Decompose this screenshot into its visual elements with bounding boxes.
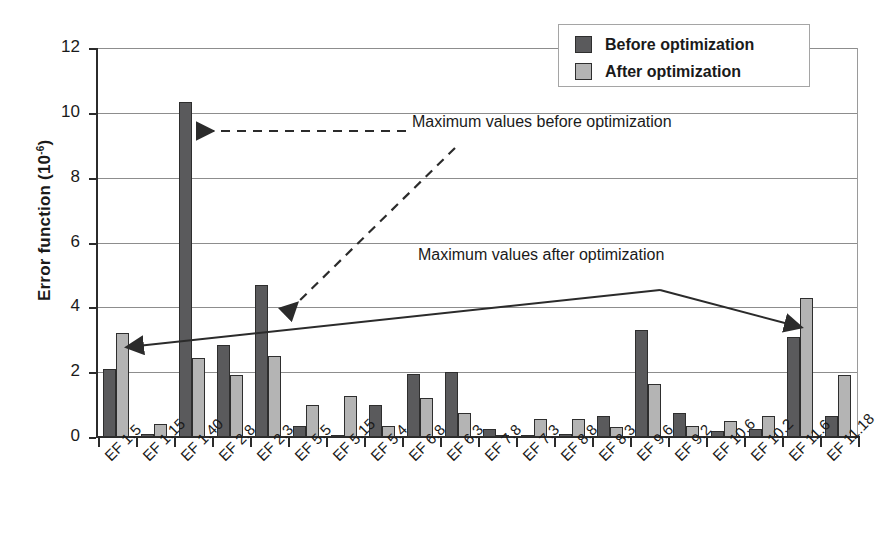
bar-before-ef-1.5 bbox=[103, 369, 116, 437]
legend: Before optimization After optimization bbox=[558, 24, 810, 87]
bar-group bbox=[402, 48, 440, 437]
x-tick-mark bbox=[516, 438, 518, 447]
y-tick-label-12: 12 bbox=[46, 37, 80, 57]
x-tick-mark bbox=[668, 438, 670, 447]
annotation-max-before: Maximum values before optimization bbox=[412, 113, 672, 131]
bar-group bbox=[98, 48, 136, 437]
y-tick-label-10: 10 bbox=[46, 102, 80, 122]
legend-swatch-before-icon bbox=[575, 36, 592, 53]
bar-before-ef-1.15 bbox=[141, 434, 154, 437]
bar-group bbox=[744, 48, 782, 437]
bar-before-ef-5.15 bbox=[331, 435, 344, 437]
bar-before-ef-9.6 bbox=[635, 330, 648, 437]
x-tick-mark bbox=[782, 438, 784, 447]
y-tick-mark-2 bbox=[89, 372, 96, 374]
bar-before-ef-2.3 bbox=[255, 285, 268, 437]
bar-series-container bbox=[98, 48, 858, 437]
x-tick-mark bbox=[858, 438, 860, 447]
bar-group bbox=[174, 48, 212, 437]
bar-group bbox=[820, 48, 858, 437]
bar-group bbox=[288, 48, 326, 437]
legend-swatch-after-icon bbox=[575, 63, 592, 80]
annotation-max-after: Maximum values after optimization bbox=[418, 246, 664, 264]
x-tick-mark bbox=[478, 438, 480, 447]
bar-group bbox=[668, 48, 706, 437]
bar-group bbox=[516, 48, 554, 437]
y-tick-label-6: 6 bbox=[46, 232, 80, 252]
y-tick-mark-8 bbox=[89, 178, 96, 180]
x-tick-mark bbox=[592, 438, 594, 447]
bar-group bbox=[136, 48, 174, 437]
bar-group bbox=[326, 48, 364, 437]
x-tick-mark bbox=[744, 438, 746, 447]
x-tick-mark bbox=[136, 438, 138, 447]
x-tick-mark bbox=[820, 438, 822, 447]
x-tick-mark bbox=[706, 438, 708, 447]
bar-after-ef-11.6 bbox=[800, 298, 813, 437]
x-tick-mark bbox=[174, 438, 176, 447]
legend-label-before: Before optimization bbox=[605, 36, 754, 54]
bar-group bbox=[554, 48, 592, 437]
y-tick-mark-10 bbox=[89, 113, 96, 115]
x-tick-mark bbox=[98, 438, 100, 447]
bar-before-ef-6.8 bbox=[407, 374, 420, 437]
x-tick-mark bbox=[326, 438, 328, 447]
bar-group bbox=[364, 48, 402, 437]
bar-group bbox=[630, 48, 668, 437]
legend-label-after: After optimization bbox=[605, 63, 741, 81]
legend-item-before: Before optimization bbox=[575, 31, 809, 58]
bar-group bbox=[440, 48, 478, 437]
bar-group bbox=[212, 48, 250, 437]
bar-chart: Error function (10-6) 024681012 EF 1.5EF… bbox=[0, 0, 875, 542]
y-tick-label-4: 4 bbox=[46, 296, 80, 316]
y-tick-label-0: 0 bbox=[46, 426, 80, 446]
y-axis-title-end: ) bbox=[35, 140, 54, 146]
bar-before-ef-1.40 bbox=[179, 102, 192, 438]
x-tick-mark bbox=[440, 438, 442, 447]
bar-before-ef-7.3 bbox=[521, 435, 534, 437]
bar-before-ef-6.3 bbox=[445, 372, 458, 437]
bar-group bbox=[478, 48, 516, 437]
x-tick-mark bbox=[250, 438, 252, 447]
x-tick-mark bbox=[364, 438, 366, 447]
bar-group bbox=[782, 48, 820, 437]
y-tick-label-8: 8 bbox=[46, 167, 80, 187]
y-tick-mark-6 bbox=[89, 243, 96, 245]
x-tick-mark bbox=[554, 438, 556, 447]
y-tick-mark-0 bbox=[89, 437, 96, 439]
x-tick-mark bbox=[212, 438, 214, 447]
y-tick-mark-4 bbox=[89, 307, 96, 309]
bar-after-ef-1.5 bbox=[116, 333, 129, 437]
y-tick-mark-12 bbox=[89, 48, 96, 50]
x-tick-mark bbox=[402, 438, 404, 447]
y-tick-label-2: 2 bbox=[46, 361, 80, 381]
x-tick-mark bbox=[288, 438, 290, 447]
x-tick-mark bbox=[630, 438, 632, 447]
bar-group bbox=[706, 48, 744, 437]
bar-group bbox=[250, 48, 288, 437]
legend-item-after: After optimization bbox=[575, 58, 809, 85]
y-axis-title-exponent: -6 bbox=[35, 146, 46, 155]
bar-group bbox=[592, 48, 630, 437]
bar-before-ef-8.8 bbox=[559, 434, 572, 437]
